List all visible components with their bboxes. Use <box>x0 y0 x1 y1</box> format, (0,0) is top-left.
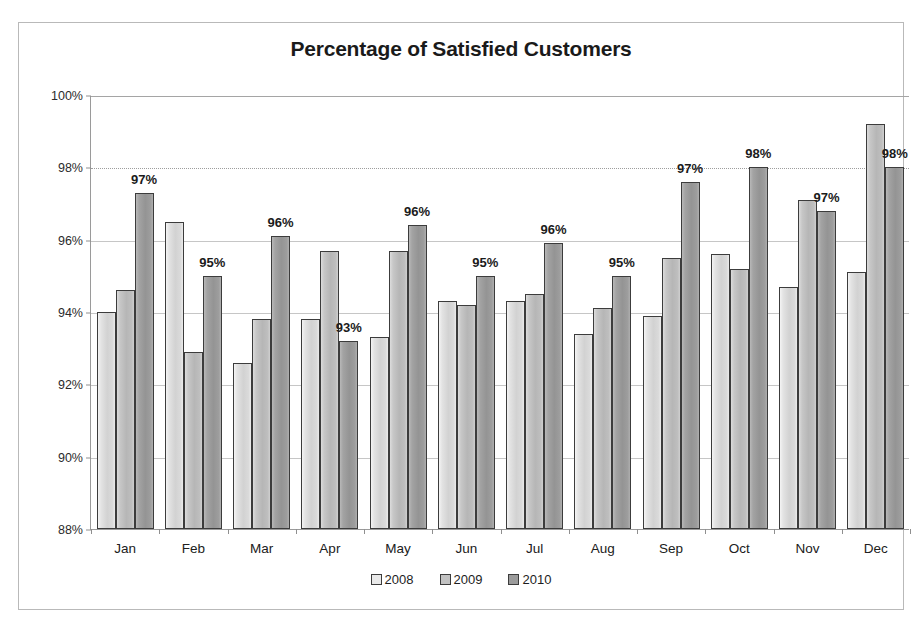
bar-2009-Aug[interactable] <box>593 308 612 529</box>
x-tick-label-Aug: Aug <box>591 541 615 556</box>
bar-group <box>296 96 364 529</box>
x-tick-label-Jan: Jan <box>114 541 136 556</box>
bar-group <box>501 96 569 529</box>
x-tick-label-Jul: Jul <box>526 541 543 556</box>
bar-group <box>364 96 432 529</box>
bar-group <box>159 96 227 529</box>
legend-swatch-icon <box>371 574 382 585</box>
bar-2008-Sep[interactable] <box>643 316 662 529</box>
x-tick-label-Feb: Feb <box>182 541 205 556</box>
data-label-Mar: 96% <box>268 215 294 230</box>
y-tick-label: 100% <box>51 89 83 103</box>
chart-title: Percentage of Satisfied Customers <box>19 37 903 61</box>
y-tick-label: 96% <box>58 234 83 248</box>
bar-2010-Jan[interactable] <box>135 193 154 529</box>
bar-2010-Jul[interactable] <box>544 243 563 529</box>
x-tick-label-Nov: Nov <box>796 541 820 556</box>
bar-2010-Feb[interactable] <box>203 276 222 529</box>
bar-2008-Jun[interactable] <box>438 301 457 529</box>
legend-label: 2009 <box>454 572 483 587</box>
bar-group <box>91 96 159 529</box>
bar-2009-Jan[interactable] <box>116 290 135 529</box>
x-tick-mark <box>228 529 229 534</box>
x-tick-mark <box>501 529 502 534</box>
plot-area: 100%98%96%94%92%90%88% 97%95%96%93%96%95… <box>90 96 909 530</box>
legend-item-2010[interactable]: 2010 <box>508 572 551 587</box>
x-tick-mark <box>910 529 911 534</box>
data-label-Oct: 98% <box>745 146 771 161</box>
bar-2009-Sep[interactable] <box>662 258 681 529</box>
x-tick-label-Jun: Jun <box>455 541 477 556</box>
bar-2008-Aug[interactable] <box>574 334 593 529</box>
data-label-May: 96% <box>404 204 430 219</box>
data-label-Jan: 97% <box>131 172 157 187</box>
y-tick-label: 94% <box>58 306 83 320</box>
bar-2009-Oct[interactable] <box>730 269 749 529</box>
data-label-Apr: 93% <box>336 320 362 335</box>
bar-2008-Feb[interactable] <box>165 222 184 529</box>
bar-2010-Nov[interactable] <box>817 211 836 529</box>
x-tick-mark <box>432 529 433 534</box>
legend-label: 2008 <box>385 572 414 587</box>
x-tick-label-Apr: Apr <box>319 541 340 556</box>
bar-2010-Sep[interactable] <box>681 182 700 529</box>
bar-2009-Nov[interactable] <box>798 200 817 529</box>
bar-2009-Mar[interactable] <box>252 319 271 529</box>
data-label-Dec: 98% <box>882 146 908 161</box>
bar-2009-May[interactable] <box>389 251 408 529</box>
data-label-Sep: 97% <box>677 161 703 176</box>
legend-item-2009[interactable]: 2009 <box>440 572 483 587</box>
bar-2008-Jul[interactable] <box>506 301 525 529</box>
x-tick-mark <box>159 529 160 534</box>
bar-2009-Dec[interactable] <box>866 124 885 529</box>
bar-2008-Oct[interactable] <box>711 254 730 529</box>
chart-legend: 200820092010 <box>19 572 903 587</box>
y-tick-label: 90% <box>58 451 83 465</box>
legend-label: 2010 <box>522 572 551 587</box>
bar-group <box>432 96 500 529</box>
x-tick-mark <box>296 529 297 534</box>
x-tick-mark <box>91 529 92 534</box>
x-tick-label-Sep: Sep <box>659 541 683 556</box>
bar-2010-Dec[interactable] <box>885 167 904 529</box>
bar-2009-Apr[interactable] <box>320 251 339 529</box>
legend-swatch-icon <box>508 574 519 585</box>
x-tick-mark <box>569 529 570 534</box>
bar-2008-Mar[interactable] <box>233 363 252 529</box>
x-tick-label-Dec: Dec <box>864 541 888 556</box>
bar-2008-May[interactable] <box>370 337 389 529</box>
x-tick-mark <box>637 529 638 534</box>
bar-2009-Feb[interactable] <box>184 352 203 529</box>
bar-2010-Oct[interactable] <box>749 167 768 529</box>
data-label-Nov: 97% <box>814 190 840 205</box>
y-tick-label: 88% <box>58 523 83 537</box>
bar-2008-Jan[interactable] <box>97 312 116 529</box>
x-tick-mark <box>705 529 706 534</box>
y-tick-label: 98% <box>58 161 83 175</box>
x-tick-mark <box>774 529 775 534</box>
bar-2010-Apr[interactable] <box>339 341 358 529</box>
bar-2008-Nov[interactable] <box>779 287 798 529</box>
bar-2009-Jul[interactable] <box>525 294 544 529</box>
x-tick-mark <box>842 529 843 534</box>
bar-2009-Jun[interactable] <box>457 305 476 529</box>
bar-2010-May[interactable] <box>408 225 427 529</box>
chart-container: Percentage of Satisfied Customers 100%98… <box>18 22 904 610</box>
x-tick-label-Mar: Mar <box>250 541 273 556</box>
x-tick-label-Oct: Oct <box>729 541 750 556</box>
bar-2010-Aug[interactable] <box>612 276 631 529</box>
legend-swatch-icon <box>440 574 451 585</box>
y-tick-label: 92% <box>58 378 83 392</box>
bar-2008-Dec[interactable] <box>847 272 866 529</box>
data-label-Jul: 96% <box>541 222 567 237</box>
data-label-Feb: 95% <box>199 255 225 270</box>
data-label-Jun: 95% <box>472 255 498 270</box>
bar-2010-Jun[interactable] <box>476 276 495 529</box>
legend-item-2008[interactable]: 2008 <box>371 572 414 587</box>
bar-2010-Mar[interactable] <box>271 236 290 529</box>
bar-group <box>569 96 637 529</box>
bar-group <box>228 96 296 529</box>
x-tick-label-May: May <box>385 541 411 556</box>
bar-2008-Apr[interactable] <box>301 319 320 529</box>
data-label-Aug: 95% <box>609 255 635 270</box>
